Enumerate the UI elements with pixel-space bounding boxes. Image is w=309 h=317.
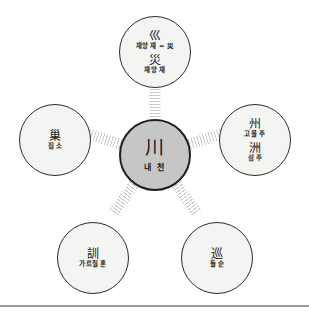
satellite-node-top-gloss-alt: 재앙 재	[144, 67, 165, 74]
satellite-node-top-gloss: 재앙 재 = 災	[136, 43, 175, 50]
satellite-node-right-hanja-alt: 洲	[249, 142, 262, 155]
center-node-hanja: 川	[145, 137, 165, 158]
satellite-node-right-gloss: 고을 주	[244, 131, 265, 138]
satellite-node-bottom-right[interactable]: 巡 돌 순	[181, 222, 253, 294]
center-node-gloss: 내 천	[144, 164, 165, 173]
satellite-node-bottom-left[interactable]: 訓 가르칠 훈	[57, 222, 129, 294]
satellite-node-top[interactable]: 巛 재앙 재 = 災 災 재앙 재	[119, 16, 191, 88]
bottom-divider	[0, 305, 309, 307]
satellite-node-left-gloss: 집 소	[48, 143, 63, 150]
diagram-canvas: 川 내 천 巛 재앙 재 = 災 災 재앙 재 州 고을 주 洲 섬 주 巡 돌…	[0, 0, 309, 317]
satellite-node-left[interactable]: 巢 집 소	[19, 104, 91, 176]
satellite-node-top-hanja-alt: 災	[149, 54, 162, 67]
center-node[interactable]: 川 내 천	[119, 119, 191, 191]
satellite-node-right[interactable]: 州 고을 주 洲 섬 주	[219, 104, 291, 176]
satellite-node-right-gloss-alt: 섬 주	[248, 155, 263, 162]
satellite-node-bottom-right-gloss: 돌 순	[210, 261, 225, 268]
satellite-node-bottom-left-gloss: 가르칠 훈	[79, 261, 106, 268]
